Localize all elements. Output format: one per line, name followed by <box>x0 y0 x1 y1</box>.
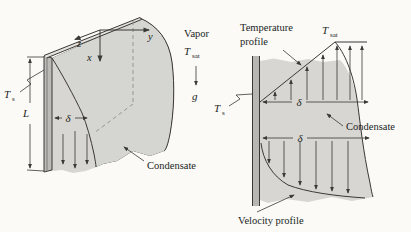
vapor-label: Vapor <box>184 28 210 39</box>
tsat-sub-left: sat <box>192 52 200 60</box>
tsat-annotation-right: T sat <box>322 24 338 39</box>
condensate-label-right: Condensate <box>346 121 395 132</box>
plate-edge <box>44 56 52 172</box>
velocity-profile-label: Velocity profile <box>238 215 304 226</box>
temperature-profile-label-line1: Temperature <box>240 22 293 33</box>
figure-film-condensation: y x z L T s δ <box>0 0 411 232</box>
wall-strip <box>253 56 260 206</box>
vapor-annotation: Vapor T sat g <box>184 28 210 102</box>
plate-length-dimension: L <box>22 57 44 171</box>
film-thickness-label-top: δ <box>296 96 302 108</box>
wall <box>253 56 260 206</box>
y-axis-label: y <box>147 31 153 42</box>
temperature-profile-label-line2: profile <box>240 36 268 47</box>
temperature-profile-callout: Temperature profile <box>240 22 301 65</box>
diagram-canvas: y x z L T s δ <box>0 0 411 232</box>
ts-sub-right: s <box>222 109 225 117</box>
x-axis-label: x <box>86 52 92 63</box>
film-thickness-label-left: δ <box>65 112 71 124</box>
ts-leader-line <box>20 70 44 92</box>
film-thickness-label-bottom: δ <box>297 132 303 144</box>
tsat-base-left: T <box>184 45 191 57</box>
right-figure-profiles: δ δ Temperature profile T sat <box>214 22 395 226</box>
gravity-label: g <box>192 90 198 102</box>
left-figure-3d-view: y x z L T s δ <box>4 18 210 174</box>
surface-temperature-left: T s <box>4 70 44 103</box>
tsat-base-right: T <box>322 24 329 36</box>
plate-length-label: L <box>22 107 29 119</box>
ts-base-right: T <box>214 102 221 114</box>
z-axis-label: z <box>76 38 81 49</box>
ts-sub: s <box>12 95 15 103</box>
tsat-sub-right: sat <box>330 31 338 39</box>
ts-base: T <box>4 88 11 100</box>
condensate-label-left: Condensate <box>147 160 196 171</box>
l-dim-bottom-tick <box>27 170 44 171</box>
surface-temperature-right: T s <box>214 94 252 117</box>
ts-leader-line-right <box>229 94 252 106</box>
